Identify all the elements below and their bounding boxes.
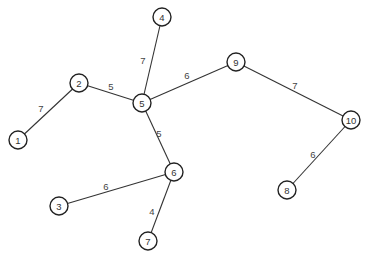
node-label: 1 [15,135,20,146]
edge-weight-label: 5 [156,128,161,139]
node-2: 2 [70,74,88,92]
node-5: 5 [133,94,151,112]
edge-weight-label: 6 [310,149,315,160]
node-3: 3 [50,197,68,215]
node-label: 3 [56,201,61,212]
nodes-layer: 12345678910 [9,8,360,250]
node-1: 1 [9,131,27,149]
node-8: 8 [278,181,296,199]
edge-weight-label: 6 [103,181,108,192]
node-4: 4 [153,8,171,26]
node-label: 5 [139,98,144,109]
node-label: 10 [346,115,357,126]
edge-3-6 [59,172,174,206]
edge-weight-label: 4 [149,206,154,217]
edge-9-10 [236,62,351,120]
edge-10-8 [287,120,351,190]
node-6: 6 [165,163,183,181]
node-label: 2 [76,78,81,89]
node-7: 7 [139,232,157,250]
edge-weight-label: 6 [184,70,189,81]
node-label: 7 [145,236,150,247]
edge-weight-label: 7 [292,80,297,91]
edge-5-9 [142,62,236,103]
edge-weight-label: 7 [38,103,43,114]
weighted-graph: 757657664 12345678910 [0,0,369,261]
edge-1-2 [18,83,79,140]
node-label: 6 [171,167,176,178]
edge-weight-label: 7 [140,55,145,66]
node-label: 8 [284,185,289,196]
node-label: 9 [233,57,238,68]
node-10: 10 [342,111,360,129]
edge-weight-label: 5 [108,81,113,92]
node-label: 4 [159,12,164,23]
node-9: 9 [227,53,245,71]
